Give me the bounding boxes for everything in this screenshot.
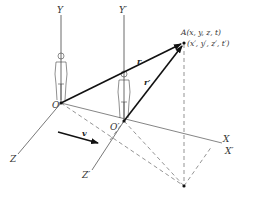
frames-diagram: Y Y′ Z Z′ X X′ O O′ A(x, y, z, t) (x′, y… xyxy=(0,0,254,197)
origin-o-prime-label: O′ xyxy=(110,122,119,132)
z-prime-axis-label: Z′ xyxy=(81,170,90,180)
z-axis-label: Z xyxy=(9,154,17,164)
projection-point xyxy=(182,184,185,187)
event-a-label: A(x, y, z, t) xyxy=(180,28,221,37)
y-prime-axis-label: Y′ xyxy=(119,5,127,15)
event-a-primed-coords: (x′, y′, z′, t′) xyxy=(187,39,229,48)
x-axis-label: X xyxy=(222,134,230,144)
velocity-arrow xyxy=(58,132,98,143)
event-a-dot xyxy=(182,41,185,44)
x-prime-axis-label: X′ xyxy=(224,146,233,156)
origin-o-label: O xyxy=(52,100,60,110)
vector-r xyxy=(61,44,181,103)
vector-r-prime-label: r′ xyxy=(144,77,151,87)
vector-r-label: r xyxy=(137,56,142,66)
origin-o-dot xyxy=(59,101,62,104)
z-axis xyxy=(18,103,61,154)
origin-o-prime-dot xyxy=(122,119,125,122)
y-axis-label: Y xyxy=(57,5,64,15)
velocity-label: v xyxy=(82,128,87,138)
